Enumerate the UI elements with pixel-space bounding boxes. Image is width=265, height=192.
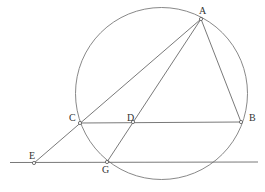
point-labels: A B C D E G — [29, 5, 256, 175]
point-c-marker — [78, 121, 81, 124]
point-a-marker — [199, 17, 202, 20]
point-b-marker — [239, 120, 242, 123]
point-e-marker — [32, 161, 35, 164]
segment-ag — [107, 19, 201, 162]
diagram-canvas: A B C D E G — [0, 0, 265, 192]
label-b: B — [249, 112, 256, 123]
points — [32, 17, 242, 164]
circumcircle — [76, 8, 248, 180]
label-g: G — [102, 164, 109, 175]
segment-ae — [34, 19, 201, 163]
segments — [34, 19, 241, 163]
label-e: E — [29, 150, 35, 161]
geometry-diagram: A B C D E G — [0, 0, 265, 192]
line-through-e-g — [10, 162, 258, 163]
label-d: D — [127, 112, 134, 123]
label-c: C — [69, 112, 76, 123]
label-a: A — [199, 5, 207, 16]
segment-cb — [80, 122, 241, 123]
segment-ab — [201, 19, 241, 122]
